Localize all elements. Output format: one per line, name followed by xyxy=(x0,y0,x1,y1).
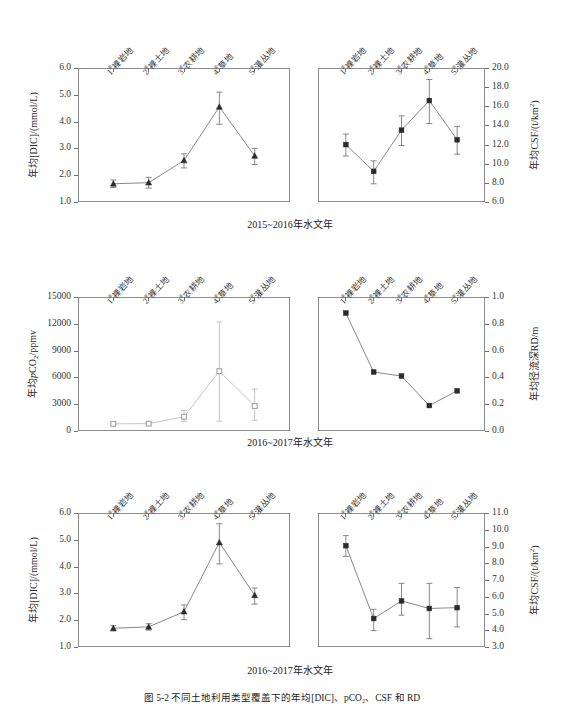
data-point-marker xyxy=(455,605,460,610)
data-point-marker xyxy=(399,599,404,604)
data-point-marker xyxy=(371,616,376,621)
data-point-marker xyxy=(427,606,432,611)
figure-caption: 图 5-2 不同土地利用类型覆盖下的年均[DIC]、pCO₂、CSF 和 RD xyxy=(0,690,564,704)
data-point-marker xyxy=(343,543,348,548)
